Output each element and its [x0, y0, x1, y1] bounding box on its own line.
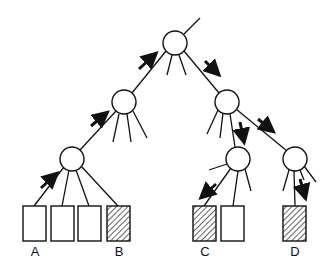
leaf-6	[221, 206, 244, 241]
node-l2-mid	[226, 147, 250, 171]
leaf-b	[107, 206, 130, 241]
leaf-2	[51, 206, 74, 241]
node-root	[163, 31, 187, 55]
edge-l1right-l2right	[236, 109, 287, 151]
edge-l1left-l2left	[80, 111, 116, 150]
node-l2-left	[60, 147, 84, 171]
arrow-down-icon	[205, 61, 215, 71]
arrow-up-icon	[91, 116, 103, 126]
leaf-3	[78, 206, 101, 241]
arrow-down-icon	[300, 179, 304, 193]
arrow-down-icon	[240, 122, 243, 137]
node-l1-left	[112, 90, 136, 114]
node-l2-right	[283, 147, 307, 171]
label-d: D	[290, 244, 299, 259]
edge-root-right	[184, 51, 219, 93]
edge-l1right-l2mid	[230, 114, 235, 147]
arrow-down-icon	[258, 119, 269, 128]
label-c: C	[200, 244, 209, 259]
label-b: B	[115, 244, 124, 259]
label-a: A	[31, 244, 40, 259]
node-l1-right	[215, 90, 239, 114]
arrow-up-icon	[41, 177, 53, 188]
leaf-a	[23, 206, 46, 241]
leaf-c	[193, 206, 216, 241]
arrow-up-icon	[139, 57, 152, 69]
tree-diagram	[0, 0, 334, 270]
edge-root-left	[132, 51, 166, 93]
leaf-d	[283, 206, 306, 241]
root-stem	[184, 18, 200, 34]
